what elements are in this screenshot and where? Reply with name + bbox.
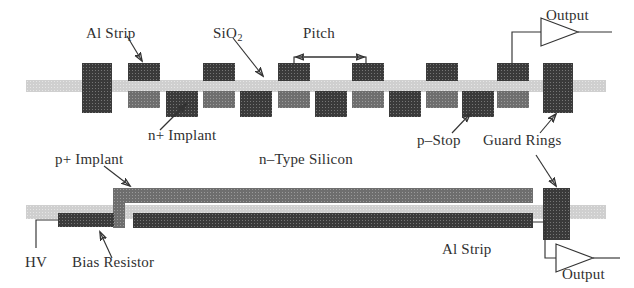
readout-wire-bottom [533, 222, 556, 258]
silicon-microstrip-detector-diagram: Al Strip SiO2 Pitch Output n+ Implant p–… [0, 0, 634, 288]
label-pitch: Pitch [303, 26, 335, 41]
label-output-top: Output [546, 8, 589, 23]
label-guard-rings: Guard Rings [483, 133, 561, 148]
leader-p-implant [104, 166, 130, 186]
label-p-stop: p–Stop [417, 133, 461, 148]
label-p-implant: p+ Implant [55, 152, 123, 167]
leader-p-stop [452, 114, 470, 133]
hv-wire [36, 220, 58, 248]
label-n-implant: n+ Implant [148, 128, 216, 143]
label-hv: HV [25, 255, 47, 270]
label-sio2: SiO2 [213, 26, 243, 45]
label-al-strip-bottom: Al Strip [442, 242, 492, 257]
label-n-type-silicon: n–Type Silicon [259, 152, 353, 167]
label-bias-resistor: Bias Resistor [72, 255, 154, 270]
label-al-strip-top: Al Strip [86, 26, 136, 41]
leader-guard-rings-top [540, 114, 556, 133]
pitch-bracket [294, 57, 366, 64]
label-output-bottom: Output [562, 267, 605, 282]
readout-wire-top [512, 32, 541, 63]
leader-guard-rings-bottom [536, 155, 556, 186]
